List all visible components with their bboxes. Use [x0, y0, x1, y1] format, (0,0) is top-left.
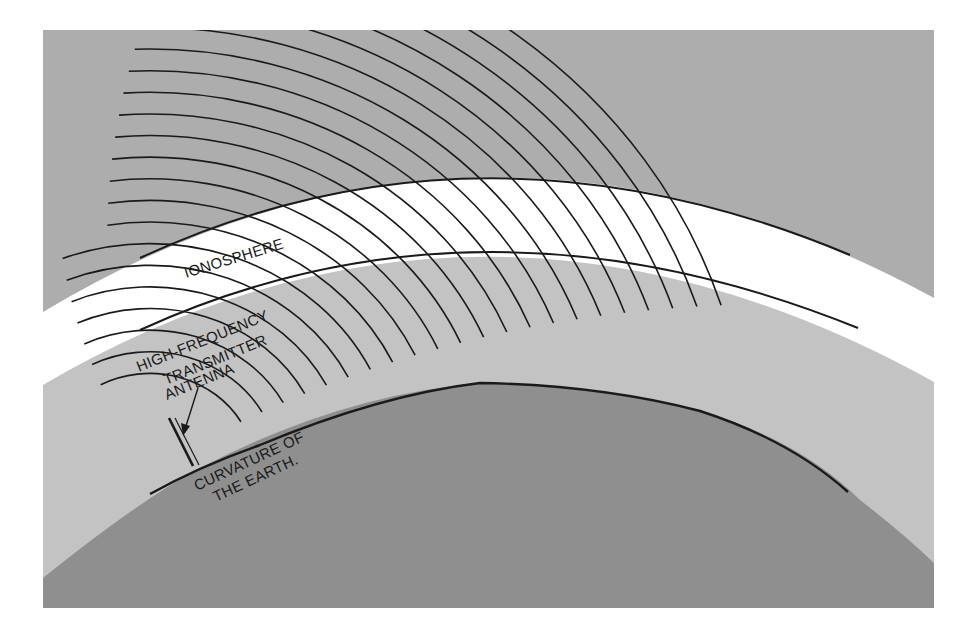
- ionosphere-diagram: IONOSPHERE HIGH-FREQUENCY TRANSMITTER AN…: [0, 0, 970, 634]
